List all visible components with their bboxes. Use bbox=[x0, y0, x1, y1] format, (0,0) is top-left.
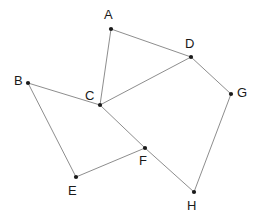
node-label-a: A bbox=[104, 8, 113, 21]
graph-node-h[interactable] bbox=[192, 190, 196, 194]
graph-canvas bbox=[0, 0, 259, 223]
node-label-f: F bbox=[139, 154, 147, 167]
graph-edge-d-g bbox=[191, 57, 231, 94]
nodes-group bbox=[26, 27, 233, 194]
graph-edge-c-d bbox=[100, 57, 191, 105]
graph-node-a[interactable] bbox=[109, 27, 113, 31]
graph-node-e[interactable] bbox=[74, 175, 78, 179]
graph-edge-a-c bbox=[100, 29, 111, 105]
graph-edge-f-h bbox=[145, 148, 194, 192]
edges-group bbox=[28, 29, 231, 192]
node-label-g: G bbox=[237, 86, 247, 99]
graph-node-f[interactable] bbox=[143, 146, 147, 150]
graph-node-g[interactable] bbox=[229, 92, 233, 96]
graph-edge-c-f bbox=[100, 105, 145, 148]
node-label-d: D bbox=[185, 37, 194, 50]
graph-edge-b-e bbox=[28, 83, 76, 177]
graph-edge-g-h bbox=[194, 94, 231, 192]
node-label-e: E bbox=[68, 184, 77, 197]
graph-node-c[interactable] bbox=[98, 103, 102, 107]
graph-diagram: ABCDEFGH bbox=[0, 0, 259, 223]
graph-node-b[interactable] bbox=[26, 81, 30, 85]
node-label-h: H bbox=[187, 199, 196, 212]
graph-edge-a-d bbox=[111, 29, 191, 57]
graph-node-d[interactable] bbox=[189, 55, 193, 59]
graph-edge-e-f bbox=[76, 148, 145, 177]
node-label-b: B bbox=[14, 74, 23, 87]
node-label-c: C bbox=[85, 89, 94, 102]
